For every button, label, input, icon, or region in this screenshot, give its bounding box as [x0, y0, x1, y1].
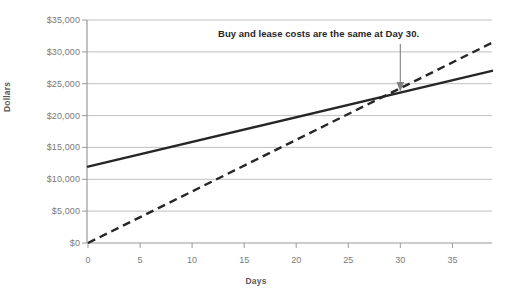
y-axis-title: Dollars — [2, 82, 12, 112]
x-axis-title: Days — [0, 276, 512, 286]
chart-container: $35,000 $30,000 $25,000 $20,000 $15,000 … — [0, 0, 512, 301]
x-tick-label: 15 — [239, 256, 249, 265]
x-axis-tick-labels: 0 5 10 15 20 25 30 35 — [0, 0, 512, 301]
x-tick-label: 0 — [85, 256, 90, 265]
annotation-label: Buy and lease costs are the same at Day … — [218, 28, 419, 39]
x-tick-label: 5 — [138, 256, 143, 265]
x-tick-label: 35 — [447, 256, 457, 265]
x-tick-label: 10 — [187, 256, 197, 265]
x-tick-label: 20 — [291, 256, 301, 265]
x-tick-label: 30 — [395, 256, 405, 265]
x-tick-label: 25 — [343, 256, 353, 265]
